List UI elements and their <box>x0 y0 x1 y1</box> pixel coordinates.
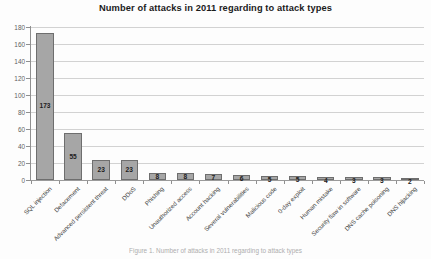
y-axis-tick-label: 140 <box>3 58 25 65</box>
bar[interactable]: 2 <box>401 178 418 180</box>
bar-value-label: 55 <box>69 153 76 160</box>
bar[interactable]: 5 <box>261 176 278 180</box>
bar[interactable]: 8 <box>177 173 194 180</box>
bar-value-label: 3 <box>380 177 384 184</box>
bar-value-label: 173 <box>40 102 51 109</box>
x-axis-tick <box>340 181 341 184</box>
bar-slot: 23 <box>121 27 138 180</box>
bar-slot: 3 <box>373 27 390 180</box>
bar-value-label: 23 <box>97 166 104 173</box>
bar-slot: 2 <box>401 27 418 180</box>
y-axis-tick-label: 20 <box>3 160 25 167</box>
bar-value-label: 3 <box>352 177 356 184</box>
bar-slot: 8 <box>149 27 166 180</box>
bar[interactable]: 4 <box>317 177 334 180</box>
bar-value-label: 2 <box>408 178 412 185</box>
x-axis-category-label: DDoS <box>121 185 138 202</box>
x-axis-category-label: Defacement <box>52 185 81 214</box>
y-axis-tick-label: 100 <box>3 92 25 99</box>
bar[interactable]: 5 <box>289 176 306 180</box>
bar-slot: 6 <box>233 27 250 180</box>
x-axis-tick <box>256 181 257 184</box>
bar[interactable]: 3 <box>345 177 362 180</box>
y-axis-tick-label: 0 <box>3 177 25 184</box>
bar-slot: 55 <box>64 27 81 180</box>
bar-slot: 5 <box>289 27 306 180</box>
figure-caption: Figure 1. Number of attacks in 2011 rega… <box>0 247 431 254</box>
y-axis-tick-label: 180 <box>3 24 25 31</box>
x-axis-category-label: DNS hijacking <box>385 185 417 217</box>
bar[interactable]: 173 <box>36 33 53 180</box>
x-axis-tick <box>115 181 116 184</box>
y-axis-tick-label: 60 <box>3 126 25 133</box>
bar-value-label: 8 <box>184 173 188 180</box>
bar[interactable]: 8 <box>149 173 166 180</box>
bar-value-label: 7 <box>212 174 216 181</box>
x-axis-tick <box>171 181 172 184</box>
chart-title: Number of attacks in 2011 regarding to a… <box>0 3 431 13</box>
bar-slot: 7 <box>205 27 222 180</box>
bar-value-label: 4 <box>324 177 328 184</box>
bar[interactable]: 55 <box>64 133 81 180</box>
y-axis-tick-label: 40 <box>3 143 25 150</box>
bars-group: 1735523238876554332 <box>31 27 424 180</box>
bar-value-label: 5 <box>268 176 272 183</box>
bar-value-label: 6 <box>240 175 244 182</box>
x-axis-category-label: Security flaw in software <box>310 185 362 237</box>
bar[interactable]: 3 <box>373 177 390 180</box>
x-axis-tick <box>59 181 60 184</box>
x-axis-category-label: Advanced persistent threat <box>52 185 109 242</box>
x-axis-category-label: Phishing <box>144 185 166 207</box>
x-axis-tick <box>284 181 285 184</box>
bar-slot: 23 <box>92 27 109 180</box>
plot-area: 1735523238876554332 <box>31 27 424 180</box>
bar-slot: 3 <box>345 27 362 180</box>
bar[interactable]: 7 <box>205 174 222 180</box>
x-axis-category-label: 0-day exploit <box>276 185 306 215</box>
x-axis-tick <box>31 181 32 184</box>
x-axis-tick <box>87 181 88 184</box>
x-axis-tick <box>396 181 397 184</box>
y-axis-tick-label: 120 <box>3 75 25 82</box>
x-axis-tick <box>312 181 313 184</box>
bar[interactable]: 6 <box>233 175 250 180</box>
bar-slot: 173 <box>36 27 53 180</box>
bar[interactable]: 23 <box>121 160 138 180</box>
x-axis-tick <box>228 181 229 184</box>
bar-value-label: 23 <box>126 166 133 173</box>
bar-slot: 5 <box>261 27 278 180</box>
bar[interactable]: 23 <box>92 160 109 180</box>
y-axis-tick-label: 160 <box>3 41 25 48</box>
x-axis-tick <box>368 181 369 184</box>
bar-chart: Number of attacks in 2011 regarding to a… <box>0 0 431 259</box>
x-axis-tick <box>143 181 144 184</box>
bar-slot: 4 <box>317 27 334 180</box>
x-axis-tick <box>424 181 425 184</box>
bar-value-label: 5 <box>296 176 300 183</box>
y-axis-tick-label: 80 <box>3 109 25 116</box>
x-axis-category-label: SQL injection <box>22 185 53 216</box>
x-axis-tick <box>199 181 200 184</box>
bar-slot: 8 <box>177 27 194 180</box>
bar-value-label: 8 <box>155 173 159 180</box>
